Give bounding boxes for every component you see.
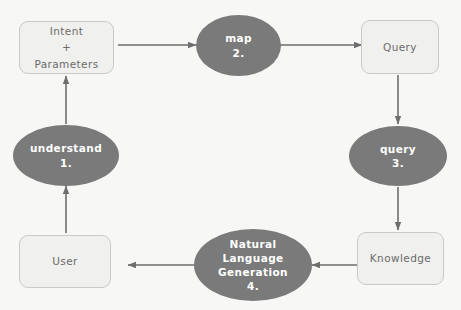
node-query-operation[interactable]: query 3. <box>349 126 447 186</box>
node-user-label: User <box>49 253 81 269</box>
diagram-canvas: Intent + Parameters map 2. Query query 3… <box>0 0 461 310</box>
node-query-operation-label: query 3. <box>377 142 419 170</box>
node-user[interactable]: User <box>19 235 111 288</box>
node-map[interactable]: map 2. <box>196 15 281 76</box>
node-intent-parameters-label: Intent + Parameters <box>31 23 101 72</box>
node-map-label: map 2. <box>222 31 255 59</box>
node-understand[interactable]: understand 1. <box>13 125 119 186</box>
node-natural-language-generation-label: Natural Language Generation 4. <box>215 237 291 294</box>
node-query[interactable]: Query <box>361 20 439 74</box>
node-knowledge-label: Knowledge <box>367 250 434 266</box>
node-understand-label: understand 1. <box>27 141 105 169</box>
node-query-label: Query <box>380 39 420 55</box>
node-natural-language-generation[interactable]: Natural Language Generation 4. <box>194 229 312 301</box>
node-knowledge[interactable]: Knowledge <box>357 232 444 285</box>
node-intent-parameters[interactable]: Intent + Parameters <box>19 21 114 74</box>
